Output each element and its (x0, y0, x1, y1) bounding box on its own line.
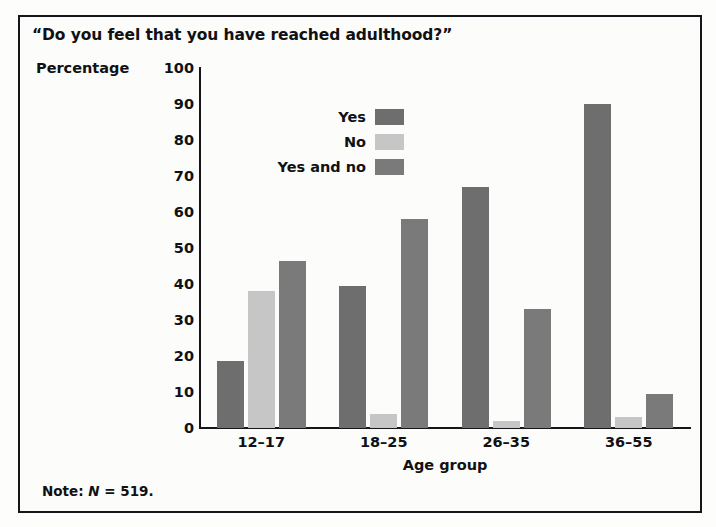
y-axis-tick-40: 40 (148, 276, 194, 292)
x-axis-tick-labels: 12–1718–2526–3536–55 (200, 434, 690, 458)
x-axis-title: Age group (200, 457, 690, 473)
legend-swatch (375, 109, 404, 125)
bar[interactable] (217, 361, 244, 428)
legend-swatch (375, 159, 404, 175)
note-prefix: Note: (42, 483, 88, 499)
bar[interactable] (646, 394, 673, 428)
bar[interactable] (279, 261, 306, 428)
legend-item[interactable]: Yes (232, 106, 404, 128)
y-axis-tick-60: 60 (148, 204, 194, 220)
y-axis-tick-labels: 1009080706050403020100 (146, 0, 194, 527)
note-symbol: N (88, 483, 99, 499)
figure-note: Note: N = 519. (42, 483, 154, 499)
x-axis-tick-2: 26–35 (482, 434, 530, 450)
bar[interactable] (339, 286, 366, 428)
legend-label: Yes and no (277, 159, 366, 175)
y-axis-tick-30: 30 (148, 312, 194, 328)
bar[interactable] (248, 291, 275, 428)
bar[interactable] (584, 104, 611, 428)
legend-item[interactable]: Yes and no (232, 156, 404, 178)
bar[interactable] (493, 421, 520, 428)
y-axis-title: Percentage (36, 60, 129, 76)
bar[interactable] (524, 309, 551, 428)
figure-container: “Do you feel that you have reached adult… (0, 0, 716, 527)
y-axis-tick-80: 80 (148, 132, 194, 148)
y-axis-tick-50: 50 (148, 240, 194, 256)
bar[interactable] (462, 187, 489, 428)
legend: YesNoYes and no (232, 106, 404, 181)
chart-title: “Do you feel that you have reached adult… (32, 26, 452, 44)
bar[interactable] (370, 414, 397, 428)
bar-group (462, 68, 551, 428)
x-axis-tick-0: 12–17 (237, 434, 285, 450)
y-axis-tick-90: 90 (148, 96, 194, 112)
bar-group (584, 68, 673, 428)
legend-label: No (344, 134, 366, 150)
x-axis-tick-1: 18–25 (360, 434, 408, 450)
note-value: = 519. (100, 483, 154, 499)
legend-swatch (375, 134, 404, 150)
y-axis-tick-20: 20 (148, 348, 194, 364)
bar[interactable] (401, 219, 428, 428)
y-axis-tick-10: 10 (148, 384, 194, 400)
legend-label: Yes (338, 109, 366, 125)
bar[interactable] (615, 417, 642, 428)
y-axis-tick-100: 100 (148, 60, 194, 76)
y-axis-tick-70: 70 (148, 168, 194, 184)
legend-item[interactable]: No (232, 131, 404, 153)
x-axis-tick-3: 36–55 (605, 434, 653, 450)
y-axis-tick-0: 0 (148, 420, 194, 436)
